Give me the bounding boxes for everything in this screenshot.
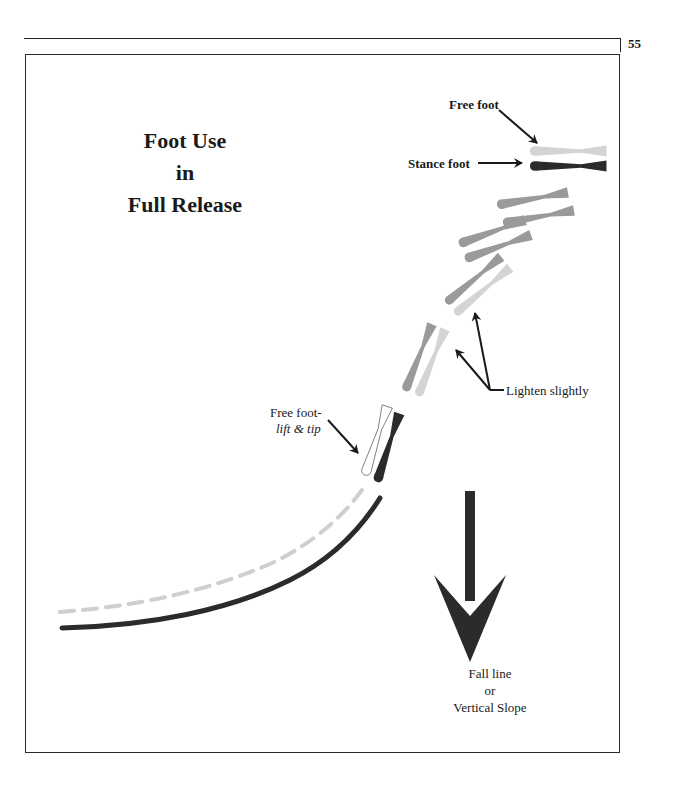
foot-pair3-a xyxy=(457,215,527,249)
stance-foot-top xyxy=(530,161,607,172)
lift-tip-arrow xyxy=(328,420,358,453)
label-lighten-slightly: Lighten slightly xyxy=(506,383,589,399)
foot-pair2-a xyxy=(496,187,569,210)
free-foot-outline xyxy=(360,405,393,477)
free-foot-arrow xyxy=(499,110,537,143)
label-fall-line: Fall line or Vertical Slope xyxy=(440,665,540,716)
free-foot-top xyxy=(530,146,607,157)
fall-line-arrow xyxy=(434,491,506,662)
lighten-arrow-2 xyxy=(456,350,490,390)
label-free-foot-lift: Free foot- xyxy=(270,405,322,421)
fall-line-3: Vertical Slope xyxy=(440,699,540,716)
fall-line-2: or xyxy=(440,682,540,699)
free-track-line xyxy=(60,490,362,612)
label-stance-foot: Stance foot xyxy=(408,156,470,172)
lighten-arrow-1 xyxy=(475,313,490,390)
fall-line-1: Fall line xyxy=(440,665,540,682)
label-lift-tip: lift & tip xyxy=(276,421,321,437)
label-free-foot: Free foot xyxy=(449,97,499,113)
